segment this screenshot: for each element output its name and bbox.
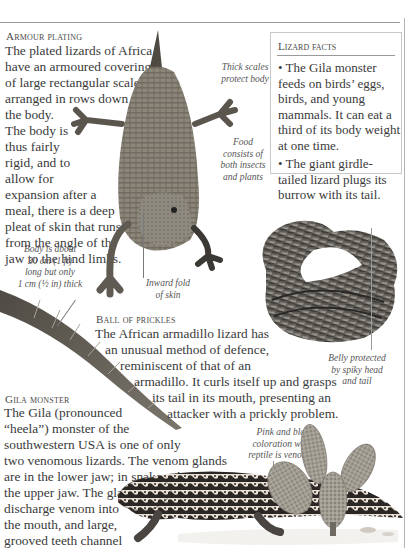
top-rule bbox=[0, 22, 400, 23]
caption-line: and plants bbox=[210, 172, 276, 184]
fact-line: tailed lizard plugs its bbox=[278, 172, 387, 188]
fact-line: burrow with its tail. bbox=[278, 187, 387, 203]
fact-line: mammals. It can eat a bbox=[278, 107, 400, 123]
caption-line: both insects bbox=[210, 160, 276, 172]
text-line: reminiscent of that of an bbox=[120, 358, 338, 374]
caption-line: Food bbox=[210, 137, 276, 149]
caption-line: consists of bbox=[210, 149, 276, 161]
gila-monster-heading: Gila monster bbox=[5, 393, 70, 405]
fact-line: birds, and young bbox=[278, 91, 400, 107]
text-line: its tail in its mouth, presenting an bbox=[152, 390, 338, 406]
facts-divider bbox=[277, 55, 395, 56]
lizard-facts-title: Lizard facts bbox=[278, 40, 336, 52]
text-line: armadillo. It curls itself up and grasps bbox=[134, 374, 338, 390]
fact-line: at one time. bbox=[278, 138, 400, 154]
fact-item-gila: • The Gila monster feeds on birds’ eggs,… bbox=[278, 60, 400, 153]
fact-item-girdle-tailed: • The giant girdle- tailed lizard plugs … bbox=[278, 156, 387, 203]
caption-line: 30 cm (1 ft) bbox=[12, 256, 88, 268]
armadillo-lizard-image bbox=[244, 210, 404, 345]
text-line: The African armadillo lizard has bbox=[95, 326, 338, 342]
caption-food: Food consists of both insects and plants bbox=[210, 137, 276, 183]
fact-line: third of its body weight bbox=[278, 122, 400, 138]
caption-line: Body is about bbox=[12, 244, 88, 256]
leader-line-belly bbox=[371, 228, 372, 350]
ball-of-prickles-heading: Ball of prickles bbox=[96, 313, 176, 325]
fact-line: • The Gila monster bbox=[278, 60, 400, 76]
fact-line: feeds on birds’ eggs, bbox=[278, 76, 400, 92]
caption-line: long but only bbox=[12, 267, 88, 279]
fact-line: • The giant girdle- bbox=[278, 156, 387, 172]
leader-line-inward-fold bbox=[143, 212, 144, 278]
gila-monster-image bbox=[118, 418, 408, 548]
lizard-facts-box: Lizard facts • The Gila monster feeds on… bbox=[270, 32, 402, 174]
text-line: an unusual method of defence, bbox=[105, 342, 338, 358]
